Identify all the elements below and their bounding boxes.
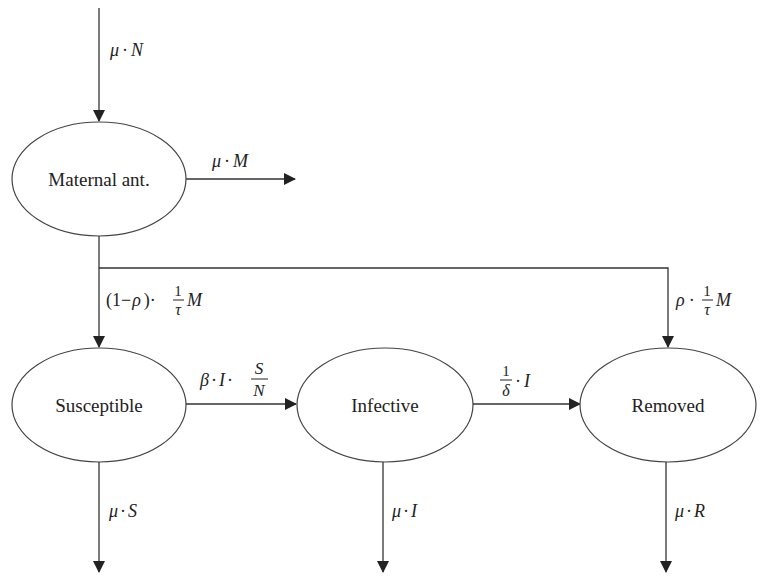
node-maternal-label: Maternal ant. bbox=[48, 169, 149, 190]
svg-text:δ: δ bbox=[502, 382, 510, 399]
label-birth: μ·N bbox=[109, 40, 144, 60]
edge-infection: β·I· S N bbox=[186, 359, 296, 404]
node-removed: Removed bbox=[580, 348, 756, 462]
svg-text:β·I·: β·I· bbox=[199, 370, 233, 390]
flow-diagram: μ·N μ·M Maternal ant. (1−ρ)· 1 τ M ρ· 1 … bbox=[0, 0, 769, 588]
node-maternal: Maternal ant. bbox=[12, 122, 186, 236]
edge-infective-death: μ·I bbox=[383, 462, 418, 572]
edge-recovery: 1 δ ·I bbox=[473, 363, 580, 404]
edge-susceptible-death: μ·S bbox=[99, 462, 137, 572]
svg-text:1: 1 bbox=[502, 363, 510, 379]
svg-text:ρ·: ρ· bbox=[675, 290, 695, 310]
edge-birth: μ·N bbox=[99, 8, 144, 121]
node-infective: Infective bbox=[297, 348, 473, 462]
svg-text:1: 1 bbox=[174, 283, 182, 299]
label-maternal-death: μ·M bbox=[211, 151, 249, 171]
edge-maternal-death: μ·M bbox=[186, 151, 295, 179]
svg-text:1: 1 bbox=[703, 283, 711, 299]
svg-text:τ: τ bbox=[175, 301, 182, 318]
svg-text:μ·I: μ·I bbox=[391, 501, 418, 521]
svg-text:μ·R: μ·R bbox=[674, 501, 705, 521]
svg-text:N: N bbox=[252, 381, 266, 400]
node-removed-label: Removed bbox=[632, 395, 705, 416]
node-infective-label: Infective bbox=[351, 395, 419, 416]
edge-removed-death: μ·R bbox=[666, 462, 705, 572]
arrow-maternal-to-removed bbox=[99, 268, 668, 347]
svg-text:τ: τ bbox=[704, 301, 711, 318]
edge-maternal-branch bbox=[99, 236, 668, 347]
node-susceptible-label: Susceptible bbox=[55, 395, 143, 416]
svg-text:M: M bbox=[186, 290, 203, 310]
svg-text:·I: ·I bbox=[515, 371, 531, 391]
svg-text:M: M bbox=[715, 290, 732, 310]
label-maternal-to-susceptible: (1−ρ)· 1 τ M bbox=[106, 283, 203, 318]
svg-text:(1−ρ)·: (1−ρ)· bbox=[106, 290, 156, 311]
svg-text:S: S bbox=[255, 359, 264, 378]
node-susceptible: Susceptible bbox=[12, 348, 186, 462]
svg-text:μ·S: μ·S bbox=[108, 501, 137, 521]
label-maternal-to-removed: ρ· 1 τ M bbox=[675, 283, 732, 318]
